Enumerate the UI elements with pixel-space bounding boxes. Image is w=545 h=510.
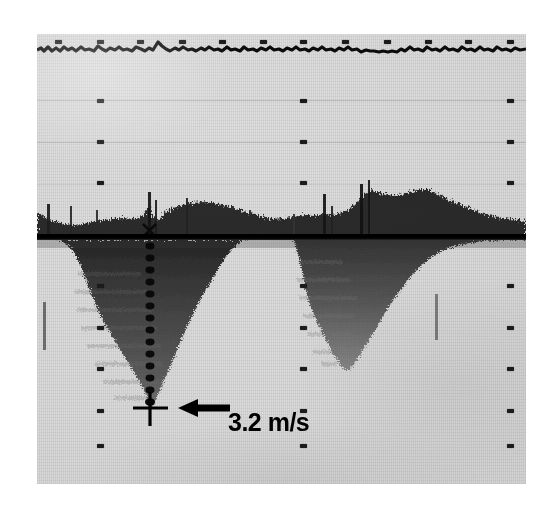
- ultrasound-scan-image: 3.2 m/s: [37, 34, 526, 484]
- left-arrow-icon: [178, 399, 230, 417]
- caliper-cross-icon: [133, 392, 168, 426]
- velocity-value-label: 3.2 m/s: [228, 410, 309, 435]
- figure-root: 3.2 m/s: [0, 0, 545, 510]
